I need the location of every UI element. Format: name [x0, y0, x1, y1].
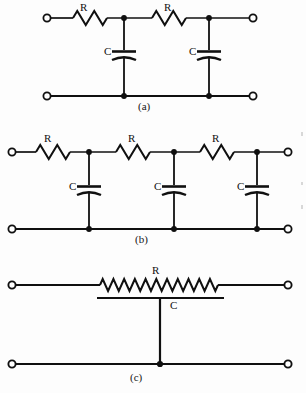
scan-artifact-3 — [301, 205, 303, 209]
circuit-c-junction-dot-bottom — [157, 361, 163, 367]
circuit-b-resistor-2-label: R — [128, 133, 135, 144]
circuit-b-resistor-2-zigzag — [116, 145, 150, 159]
circuit-b — [8, 145, 291, 233]
circuit-b-junction-dot-top-2 — [171, 149, 177, 155]
circuit-c-terminal-output-top — [284, 281, 291, 288]
circuit-a — [43, 11, 256, 100]
scan-artifact-1 — [301, 132, 303, 136]
circuit-b-resistor-3-label: R — [212, 133, 219, 144]
circuit-b-junction-dot-bottom-3 — [254, 226, 260, 232]
circuit-c-terminal-output-bottom — [284, 360, 291, 367]
circuit-b-capacitor-3-label: C — [237, 181, 244, 192]
circuit-b-capacitor-1-label: C — [69, 181, 76, 192]
circuit-a-junction-dot-bottom-2 — [206, 93, 212, 99]
circuit-c-resistor-distributed-zigzag — [100, 279, 218, 291]
circuit-a-terminal-output-top — [249, 14, 256, 21]
circuit-a-resistor-1-label: R — [80, 2, 87, 13]
circuit-b-junction-dot-top-3 — [254, 149, 260, 155]
circuit-a-junction-dot-top-2 — [206, 15, 212, 21]
circuit-a-terminal-input-top — [43, 14, 50, 21]
circuit-b-caption: (b) — [135, 233, 148, 245]
circuit-a-resistor-1-zigzag — [73, 11, 107, 25]
circuit-a-junction-dot-bottom-1 — [121, 93, 127, 99]
circuit-schematic-layer — [0, 0, 306, 393]
circuit-a-resistor-2-label: R — [164, 2, 171, 13]
circuit-c-caption: (c) — [130, 371, 142, 383]
circuit-b-terminal-input-bottom — [8, 225, 15, 232]
circuit-b-terminal-input-top — [8, 148, 15, 155]
circuit-c-capacitor-label: C — [170, 300, 177, 311]
circuit-b-resistor-1-zigzag — [36, 145, 70, 159]
circuit-b-terminal-output-top — [284, 148, 291, 155]
circuit-b-resistor-3-zigzag — [200, 145, 234, 159]
circuit-a-caption: (a) — [138, 100, 150, 112]
circuit-b-terminal-output-bottom — [284, 225, 291, 232]
figure-root: R R C C (a) R R R C C C (b) R C (c) — [0, 0, 306, 393]
circuit-b-capacitor-2-label: C — [154, 181, 161, 192]
circuit-b-junction-dot-bottom-1 — [86, 226, 92, 232]
circuit-a-capacitor-1-label: C — [104, 46, 111, 57]
circuit-a-junction-dot-top-1 — [121, 15, 127, 21]
circuit-b-junction-dot-bottom-2 — [171, 226, 177, 232]
circuit-c-terminal-input-bottom — [8, 360, 15, 367]
circuit-c-resistor-label: R — [152, 265, 159, 276]
circuit-b-junction-dot-top-1 — [86, 149, 92, 155]
circuit-a-capacitor-2-label: C — [189, 46, 196, 57]
circuit-a-terminal-input-bottom — [43, 92, 50, 99]
scan-artifact-2 — [301, 182, 303, 185]
circuit-b-resistor-1-label: R — [44, 133, 51, 144]
circuit-c — [8, 279, 291, 368]
circuit-a-terminal-output-bottom — [249, 92, 256, 99]
circuit-a-resistor-2-zigzag — [152, 11, 186, 25]
circuit-c-terminal-input-top — [8, 281, 15, 288]
